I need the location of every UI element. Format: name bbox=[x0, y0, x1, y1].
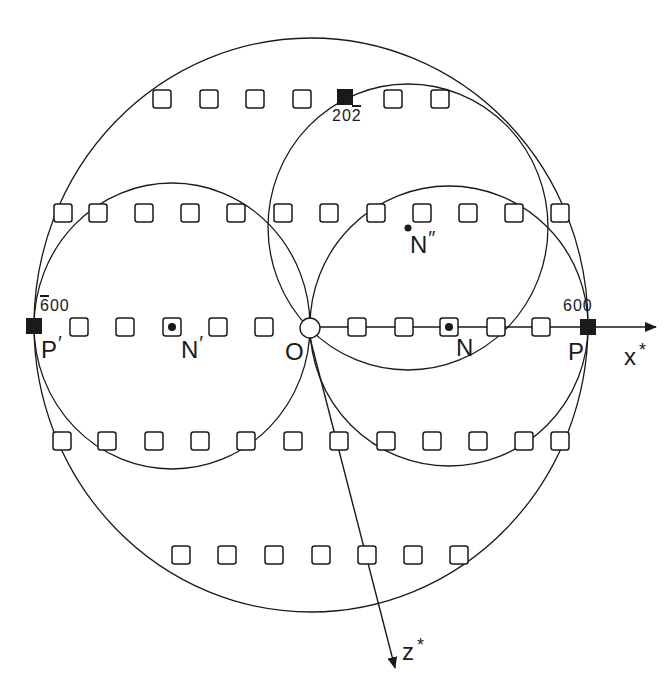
label-600: 600 bbox=[563, 298, 593, 314]
lattice-point bbox=[98, 432, 116, 450]
lattice-point bbox=[255, 318, 273, 336]
filled-point-Pp bbox=[26, 318, 42, 334]
dot-icon bbox=[445, 323, 453, 331]
lattice-point bbox=[348, 318, 366, 336]
label-P: P bbox=[568, 340, 584, 364]
lattice-point bbox=[367, 204, 385, 222]
label-N: N bbox=[456, 336, 473, 360]
lattice-point bbox=[191, 432, 209, 450]
dot-icon bbox=[168, 323, 176, 331]
lattice-point bbox=[431, 90, 449, 108]
lattice-point bbox=[469, 432, 487, 450]
label-z-star: z* bbox=[402, 640, 424, 664]
lattice-point bbox=[413, 204, 431, 222]
lattice-point bbox=[384, 90, 402, 108]
lattice-point bbox=[135, 204, 153, 222]
lattice-point bbox=[274, 204, 292, 222]
lattice-point bbox=[227, 204, 245, 222]
lattice-point bbox=[181, 204, 199, 222]
lattice-point bbox=[145, 432, 163, 450]
lattice-point bbox=[218, 546, 236, 564]
lattice-point bbox=[172, 546, 190, 564]
lattice-point bbox=[423, 432, 441, 450]
lattice-point bbox=[377, 432, 395, 450]
lattice-point bbox=[89, 204, 107, 222]
label-N-double-prime: N″ bbox=[410, 233, 435, 257]
lattice-point bbox=[404, 546, 422, 564]
filled-point-R bbox=[337, 89, 353, 105]
lattice-point bbox=[237, 432, 255, 450]
lattice-point bbox=[450, 546, 468, 564]
lattice-point bbox=[54, 204, 72, 222]
lattice-point bbox=[293, 90, 311, 108]
label-origin: O bbox=[285, 340, 304, 364]
lattice-point bbox=[246, 90, 264, 108]
lattice-point bbox=[153, 90, 171, 108]
lattice-point bbox=[200, 90, 218, 108]
z-star-axis bbox=[310, 338, 395, 668]
lattice-point bbox=[284, 432, 302, 450]
filled-point-P bbox=[580, 319, 596, 335]
lattice-point bbox=[551, 432, 569, 450]
lattice-point bbox=[312, 546, 330, 564]
label-P-prime: P′ bbox=[41, 338, 62, 362]
lattice-point bbox=[116, 318, 134, 336]
origin-circle bbox=[300, 318, 320, 338]
label-N-prime: N′ bbox=[181, 338, 203, 362]
lattice-point bbox=[209, 318, 227, 336]
lattice-point bbox=[320, 204, 338, 222]
lattice-point bbox=[515, 432, 533, 450]
lattice-point bbox=[551, 204, 569, 222]
lattice-point bbox=[330, 432, 348, 450]
lattice-point bbox=[358, 546, 376, 564]
lattice-point bbox=[505, 204, 523, 222]
label-20-bar-2: 202 bbox=[332, 108, 362, 124]
lattice-point bbox=[532, 318, 550, 336]
lattice-point bbox=[53, 432, 71, 450]
label-x-star: x* bbox=[624, 345, 646, 369]
axes-group bbox=[310, 327, 656, 668]
lattice-point bbox=[70, 318, 88, 336]
lattice-point bbox=[395, 318, 413, 336]
label-bar-600: 600 bbox=[40, 298, 70, 314]
lattice-point bbox=[487, 318, 505, 336]
lattice-point bbox=[459, 204, 477, 222]
lattice-point bbox=[265, 546, 283, 564]
